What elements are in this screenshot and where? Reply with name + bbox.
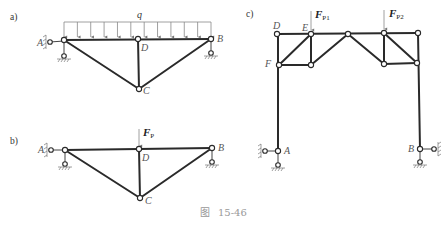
label-B: B (217, 33, 223, 44)
node-D (135, 36, 140, 41)
caption-number: 15-46 (218, 207, 247, 218)
node-right-column-joint (414, 60, 419, 65)
node-crown (345, 31, 350, 36)
member-right-diagonal (384, 33, 417, 63)
member-DC (138, 39, 139, 89)
distributed-load-q: q (64, 9, 211, 37)
label-A: A (36, 37, 44, 48)
node-A (275, 148, 280, 153)
label-D: D (140, 42, 149, 53)
node-A (62, 147, 67, 152)
load-label-FP1: FP1 (314, 8, 330, 22)
panel-a: a) q (10, 9, 223, 96)
member-AC (64, 40, 139, 89)
label-C: C (143, 85, 150, 96)
panel-b: b) FP (10, 126, 224, 206)
node-C (136, 86, 141, 91)
node-D (136, 146, 141, 151)
load-label-FP: FP (142, 126, 154, 140)
node-B (417, 146, 422, 151)
figure-15-46: a) q (0, 0, 441, 226)
member-right-fall (348, 34, 384, 64)
label-B: B (218, 142, 224, 153)
node-B (209, 145, 214, 150)
member-AC (65, 150, 140, 198)
label-C: C (145, 195, 152, 206)
point-load-FP1: FP1 (311, 8, 330, 30)
figure-caption: 图 15-46 (200, 207, 247, 218)
member-right-column (418, 33, 420, 149)
label-B: B (408, 143, 414, 154)
node-E (308, 31, 313, 36)
node-B (208, 36, 213, 41)
member-DC (139, 149, 140, 198)
label-D: D (272, 20, 281, 31)
caption-prefix: 图 (200, 207, 210, 218)
node-C (137, 195, 142, 200)
member-FE-diagonal (279, 34, 311, 65)
label-E: E (301, 22, 308, 33)
node-D (274, 31, 279, 36)
member-right-bottom (384, 63, 417, 64)
support-A (258, 144, 285, 171)
panel-c-label: c) (246, 9, 253, 20)
load-label-q: q (137, 9, 142, 20)
panel-c: c) FP1 FP2 (246, 7, 441, 171)
support-A (44, 143, 72, 170)
node-right-bottom (381, 61, 386, 66)
node-A (61, 37, 66, 42)
node-F (276, 62, 281, 67)
member-BC (140, 148, 212, 198)
panel-a-label: a) (10, 12, 17, 23)
member-left-rise (311, 34, 348, 65)
member-BC (139, 39, 211, 89)
node-left-bottom (308, 62, 313, 67)
load-arrows (64, 22, 211, 37)
panel-b-label: b) (10, 136, 18, 147)
label-D: D (141, 152, 150, 163)
label-A: A (37, 144, 45, 155)
point-load-FP2: FP2 (384, 7, 404, 29)
support-B (413, 142, 441, 168)
point-load-FP: FP (139, 126, 154, 146)
load-label-FP2: FP2 (388, 7, 404, 21)
label-A: A (283, 145, 291, 156)
node-right-corner (415, 30, 420, 35)
node-right-top (381, 30, 386, 35)
label-F: F (264, 58, 272, 69)
